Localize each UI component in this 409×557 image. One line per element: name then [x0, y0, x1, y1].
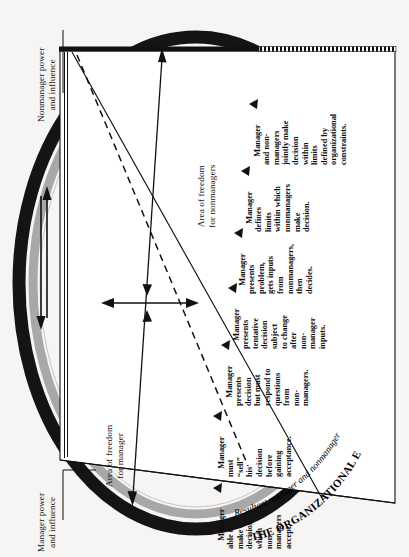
continuum-step-2: Managermust“sell”hisdecisionbeforegainin… [207, 436, 303, 477]
continuum-step-5: Managerpresentsproblem,gets inputsfromno… [228, 244, 324, 294]
area-of-freedom-manager-label: Area of freedomfor manager [104, 425, 126, 487]
continuum-step-7: Managerand non-managersjointly makedecis… [243, 114, 358, 165]
continuum-step-4: Managerpresentstentativedecisionsubjectt… [222, 308, 337, 349]
continuum-step-3-text: Managerpresentsdecisionbut mustrespond t… [225, 365, 311, 406]
continuum-step-4-text: Managerpresentstentativedecisionsubjectt… [232, 308, 327, 349]
continuum-step-1: Managerable tomakedecisionwhichnon-manag… [207, 508, 303, 549]
nonmanager-power-label: Nonmanager powerand influence [36, 48, 58, 122]
continuum-step-5-text: Managerpresentsproblem,gets inputsfromno… [238, 244, 314, 294]
continuum-step-1-text: Managerable tomakedecisionwhichnon-manag… [217, 508, 293, 549]
continuum-step-3: Managerpresentsdecisionbut mustrespond t… [215, 365, 321, 406]
top-solid-edge [59, 47, 259, 52]
continuum-step-6-text: Managerdefineslimitswithin whichnonmanag… [245, 184, 312, 232]
area-of-freedom-nonmanagers-label: Area of freedomfor nonmanagers [196, 165, 218, 229]
manager-power-label: Manager powerand influence [36, 493, 58, 552]
diagram-artwork [0, 0, 409, 557]
continuum-step-2-text: Managermust“sell”hisdecisionbeforegainin… [217, 436, 293, 477]
continuum-step-6: Managerdefineslimitswithin whichnonmanag… [235, 184, 321, 232]
continuum-step-7-text: Managerand non-managersjointly makedecis… [253, 114, 348, 165]
figure-canvas: Nonmanager powerand influence Manager po… [0, 0, 409, 557]
top-hatched-edge [259, 47, 396, 52]
